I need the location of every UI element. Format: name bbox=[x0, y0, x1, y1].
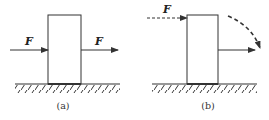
transmission-curved-arrow-b bbox=[228, 16, 260, 48]
ground-hatch-b bbox=[152, 85, 257, 93]
caption-b: (b) bbox=[201, 100, 215, 111]
force-label-b: F bbox=[162, 3, 172, 16]
force-label-right-a: F bbox=[94, 35, 104, 48]
panel-a: F F (a) bbox=[10, 15, 120, 111]
force-label-left-a: F bbox=[24, 35, 34, 48]
block-b bbox=[187, 15, 218, 84]
caption-a: (a) bbox=[56, 100, 69, 111]
ground-hatch-a bbox=[15, 85, 120, 93]
block-a bbox=[48, 15, 81, 84]
panel-b: F (b) bbox=[147, 3, 260, 111]
diagram-canvas: F F (a) F (b) bbox=[0, 0, 269, 120]
